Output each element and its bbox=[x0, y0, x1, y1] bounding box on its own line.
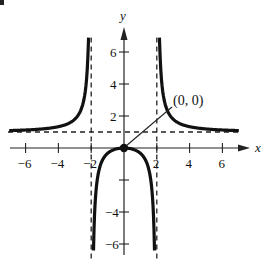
x-tick-label: 4 bbox=[186, 156, 193, 171]
origin-point bbox=[120, 144, 128, 152]
x-axis-label: x bbox=[254, 140, 261, 155]
y-tick-label: −6 bbox=[105, 237, 119, 252]
y-tick-label: 2 bbox=[110, 109, 117, 124]
x-axis-arrow-icon bbox=[238, 145, 250, 152]
left-branch bbox=[9, 38, 88, 131]
axes bbox=[10, 27, 250, 255]
leader-line bbox=[126, 107, 172, 146]
y-axis-label: y bbox=[118, 8, 126, 23]
function-graph: xy−6−4−2246−6−4246 (0, 0) bbox=[0, 0, 263, 263]
x-tick-label: −6 bbox=[18, 156, 32, 171]
y-tick-label: 6 bbox=[110, 45, 117, 60]
x-tick-label: −4 bbox=[50, 156, 64, 171]
y-axis-arrow-icon bbox=[121, 27, 128, 40]
point-label: (0, 0) bbox=[173, 93, 204, 109]
x-tick-label: −2 bbox=[83, 156, 97, 171]
x-tick-label: 6 bbox=[218, 156, 225, 171]
x-tick-label: 2 bbox=[153, 156, 160, 171]
y-tick-label: −4 bbox=[105, 205, 119, 220]
annotations: (0, 0) bbox=[120, 93, 204, 152]
right-branch bbox=[159, 38, 238, 131]
y-tick-label: 4 bbox=[110, 77, 117, 92]
